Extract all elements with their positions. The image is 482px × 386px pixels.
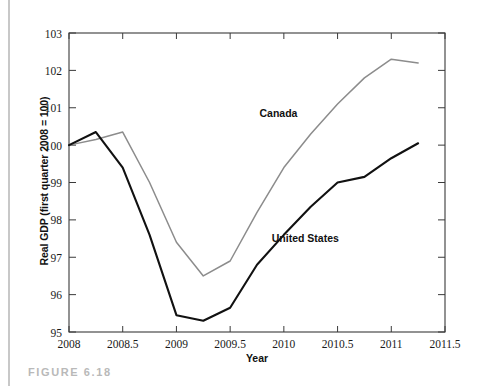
y-tick-label: 98 <box>51 214 63 226</box>
figure-caption: FIGURE 6.18 <box>28 366 112 378</box>
x-tick-label: 2011.5 <box>429 338 460 350</box>
x-tick-label: 2008.5 <box>107 338 139 350</box>
line-chart-plot: 20082008.520092009.520102010.520112011.5… <box>0 0 482 386</box>
y-axis-ticks <box>69 33 445 332</box>
y-tick-label: 101 <box>45 102 63 114</box>
x-tick-label: 2009 <box>165 338 188 350</box>
y-tick-label: 103 <box>45 28 63 40</box>
x-tick-label: 2009.5 <box>214 338 246 350</box>
series-line-canada <box>69 59 418 276</box>
series-annotation-canada: Canada <box>260 107 298 119</box>
x-tick-label: 2010 <box>272 338 295 350</box>
y-tick-label: 100 <box>45 140 63 152</box>
x-axis-tick-labels: 20082008.520092009.520102010.520112011.5 <box>58 338 461 350</box>
x-tick-label: 2008 <box>58 338 81 350</box>
series-line-united-states <box>69 132 418 321</box>
plot-frame <box>69 33 445 332</box>
x-tick-label: 2010.5 <box>322 338 354 350</box>
series-annotation-united-states: United States <box>272 232 339 244</box>
y-tick-label: 96 <box>51 289 63 301</box>
series-annotations: CanadaUnited States <box>260 107 340 244</box>
y-tick-label: 102 <box>45 65 63 77</box>
x-tick-label: 2011 <box>380 338 403 350</box>
y-tick-label: 95 <box>51 327 63 339</box>
data-series-lines <box>69 59 418 321</box>
x-axis-ticks <box>69 33 445 332</box>
y-tick-label: 97 <box>51 252 63 264</box>
y-tick-label: 99 <box>51 177 63 189</box>
figure-container: Real GDP (first quarter 2008 = 100) Year… <box>0 0 482 386</box>
y-axis-tick-labels: 9596979899100101102103 <box>45 28 63 339</box>
